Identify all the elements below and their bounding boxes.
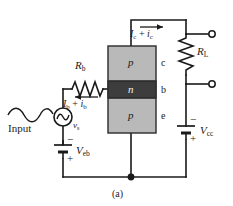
emitter-terminal-label: e xyxy=(161,111,165,121)
input-waveform-squiggle xyxy=(8,108,53,122)
base-current-i-sub: b xyxy=(83,103,86,110)
resistor-rb-zigzag xyxy=(72,82,103,96)
load-resistor-R: R xyxy=(197,45,204,57)
input-battery-V: V xyxy=(76,144,83,156)
input-battery-label: Veb xyxy=(76,145,90,158)
output-battery-minus-sign: − xyxy=(190,114,196,125)
input-label: Input xyxy=(8,123,31,134)
load-resistor-label: RL xyxy=(197,46,208,59)
ac-source-symbol xyxy=(54,108,72,126)
base-resistor-sub: b xyxy=(82,64,86,73)
output-battery-V: V xyxy=(200,124,207,136)
collector-terminal-label: c xyxy=(161,58,165,68)
load-resistor-sub: L xyxy=(204,50,209,59)
input-battery-sub: eb xyxy=(83,149,90,158)
base-current-label: Ib + ib xyxy=(63,99,87,111)
base-terminal-label: b xyxy=(161,85,166,95)
output-battery-sub: cc xyxy=(207,129,214,138)
circuit-figure: Ic + ic Ib + ib Rb RL Veb − + Vcc − + vs… xyxy=(0,0,233,206)
output-battery-plus-sign: + xyxy=(190,133,196,144)
circuit-diagram-svg xyxy=(0,0,233,206)
emitter-region-label: p xyxy=(128,110,134,121)
collector-region-label: p xyxy=(128,57,134,68)
ac-source-sub: s xyxy=(77,125,79,131)
current-arrow-collector-head xyxy=(157,24,163,30)
resistor-rl-zigzag xyxy=(179,34,193,75)
collector-current-plus: + xyxy=(136,28,147,39)
base-region-label: n xyxy=(128,84,134,95)
collector-current-i-sub: c xyxy=(150,33,153,40)
base-resistor-label: Rb xyxy=(75,60,85,73)
base-current-plus: + xyxy=(70,98,81,109)
output-terminal-top-circle[interactable] xyxy=(209,31,215,37)
ground-junction-dot xyxy=(128,174,135,181)
base-resistor-R: R xyxy=(75,59,82,71)
collector-current-label: Ic + ic xyxy=(130,29,153,41)
input-battery-minus-sign: − xyxy=(67,134,73,145)
input-battery-plus-sign: + xyxy=(67,153,73,164)
output-terminal-bottom-circle[interactable] xyxy=(209,81,215,87)
figure-caption: (a) xyxy=(112,189,123,199)
ac-source-label: vs xyxy=(73,121,79,131)
output-battery-label: Vcc xyxy=(200,125,213,138)
